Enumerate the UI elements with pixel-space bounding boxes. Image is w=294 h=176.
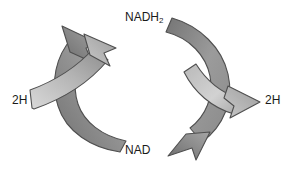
label-2h-output: 2H bbox=[265, 94, 280, 106]
label-nad: NAD bbox=[125, 144, 150, 156]
label-nadh2-subscript: 2 bbox=[159, 16, 163, 25]
label-nadh2: NADH2 bbox=[125, 11, 163, 25]
diagram-canvas: NADH2 NAD 2H 2H bbox=[0, 0, 294, 176]
label-nadh2-text: NADH bbox=[125, 10, 159, 24]
label-2h-input: 2H bbox=[12, 94, 27, 106]
